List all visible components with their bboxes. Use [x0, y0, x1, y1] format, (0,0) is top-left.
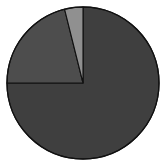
pie-chart-canvas [0, 0, 166, 166]
pie-chart-figure [0, 0, 166, 166]
pie-slices-group [7, 7, 159, 159]
